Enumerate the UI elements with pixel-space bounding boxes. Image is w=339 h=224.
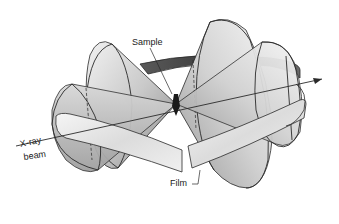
film-label: Film (170, 179, 187, 188)
film-leader (192, 170, 200, 184)
beam-arrowhead-icon (313, 78, 322, 84)
diagram-graphic (0, 0, 339, 224)
sample-label: Sample (132, 38, 163, 47)
diffraction-diagram: Sample X-ray beam Film (0, 0, 339, 224)
